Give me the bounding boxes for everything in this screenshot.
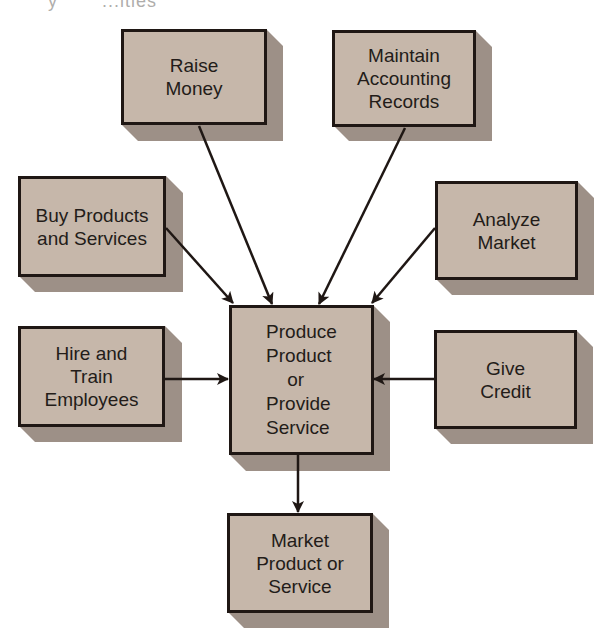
node-label: Produce Product or Provide Service: [266, 320, 337, 440]
node-label: Market Product or Service: [256, 529, 344, 598]
node-label: Give Credit: [480, 357, 531, 403]
node-hire-and-train-employees: Hire and Train Employees: [18, 326, 165, 427]
node-label: Analyze Market: [473, 208, 541, 254]
title-fragment-left: y: [48, 0, 58, 12]
node-label: Raise Money: [165, 54, 222, 100]
node-analyze-market: Analyze Market: [435, 181, 578, 280]
node-market-product-or-service: Market Product or Service: [227, 513, 373, 613]
node-produce-product-or-provide-service: Produce Product or Provide Service: [229, 305, 374, 455]
arrow-raise-money-to-produce: [199, 126, 272, 304]
node-give-credit: Give Credit: [434, 330, 577, 429]
arrow-analyze-market-to-produce: [372, 228, 435, 303]
node-maintain-accounting-records: Maintain Accounting Records: [332, 30, 476, 127]
node-buy-products-and-services: Buy Products and Services: [18, 176, 166, 277]
node-label: Maintain Accounting Records: [357, 44, 451, 113]
title-fragment-right: ...ities: [102, 0, 157, 12]
node-label: Buy Products and Services: [36, 204, 149, 250]
node-raise-money: Raise Money: [121, 29, 267, 125]
arrow-maintain-records-to-produce: [319, 128, 405, 304]
node-label: Hire and Train Employees: [45, 342, 139, 411]
